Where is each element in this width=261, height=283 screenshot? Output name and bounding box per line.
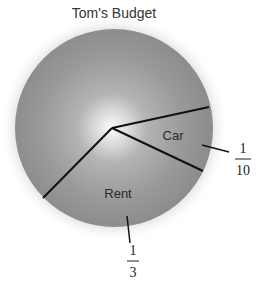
- slice-label-car: Car: [163, 128, 185, 143]
- pie-chart: Car Rent 1 10 1 3: [0, 0, 261, 283]
- car-fraction-numerator: 1: [240, 141, 247, 156]
- car-fraction-denominator: 10: [236, 163, 250, 178]
- slice-label-rent: Rent: [104, 186, 132, 201]
- rent-fraction-numerator: 1: [130, 243, 137, 258]
- rent-fraction-denominator: 3: [130, 265, 137, 280]
